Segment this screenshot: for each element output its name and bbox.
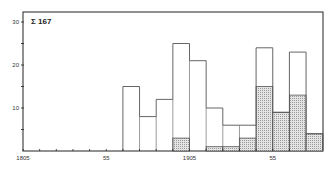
y-tick-label: 30 [12, 19, 19, 25]
shaded-bar [223, 147, 240, 151]
tick-labels: 180555190555102030 [12, 19, 276, 161]
axes [21, 22, 289, 151]
shaded-series [173, 87, 323, 152]
x-tick-label: 1805 [16, 155, 30, 161]
sum-annotation: Σ 167 [31, 17, 52, 26]
shaded-bar [206, 147, 223, 151]
shaded-bar [239, 138, 256, 151]
shaded-bar [289, 95, 306, 151]
shaded-bar [273, 112, 290, 151]
shaded-bar [256, 87, 273, 152]
shaded-bar [173, 138, 190, 151]
x-tick-label: 55 [103, 155, 110, 161]
histogram-chart: 180555190555102030 Σ 167 [0, 0, 333, 170]
x-tick-label: 55 [269, 155, 276, 161]
shaded-bar [306, 134, 323, 151]
y-tick-label: 20 [12, 62, 19, 68]
x-tick-label: 1905 [183, 155, 197, 161]
y-tick-label: 10 [12, 105, 19, 111]
